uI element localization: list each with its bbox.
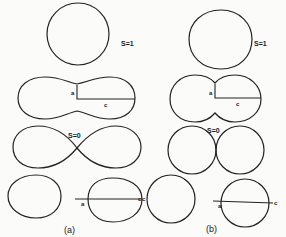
b-split-c-label: c: [274, 200, 278, 206]
a-sphere: [47, 3, 109, 65]
fission-shapes-diagram: S=1 a c S=0 a c (a) S=1 a c S=0 a: [0, 0, 286, 237]
a-s0-label: S=0: [68, 132, 81, 139]
panel-a: S=1 a c S=0 a c (a): [8, 3, 146, 235]
b-sphere: [189, 10, 252, 69]
a-right-fragment: [88, 178, 142, 222]
b-split-axis: [213, 201, 273, 203]
b-left-fragment: [147, 175, 195, 223]
a-s1-label: S=1: [121, 40, 134, 47]
b-dumbbell-axes: [215, 84, 261, 98]
a-split-c-label: c: [142, 196, 146, 202]
a-peanut-c-label: c: [104, 102, 108, 108]
a-split-a-label: a: [81, 201, 85, 207]
b-s1-label: S=1: [254, 40, 267, 47]
panel-a-label: (a): [64, 225, 75, 235]
b-dumbbell-a-label: a: [209, 90, 213, 96]
b-dumbbell-c-label: c: [236, 101, 240, 107]
a-peanut-a-label: a: [71, 90, 75, 96]
panel-b-label: (b): [206, 224, 217, 234]
panel-b: S=1 a c S=0 a c c (b): [138, 10, 278, 234]
a-left-fragment: [8, 175, 61, 218]
diagram-svg: S=1 a c S=0 a c (a) S=1 a c S=0 a: [0, 0, 286, 237]
b-right-sphere: [216, 126, 264, 174]
b-s0-label: S=0: [207, 127, 220, 134]
a-peanut-axes: [77, 85, 135, 99]
